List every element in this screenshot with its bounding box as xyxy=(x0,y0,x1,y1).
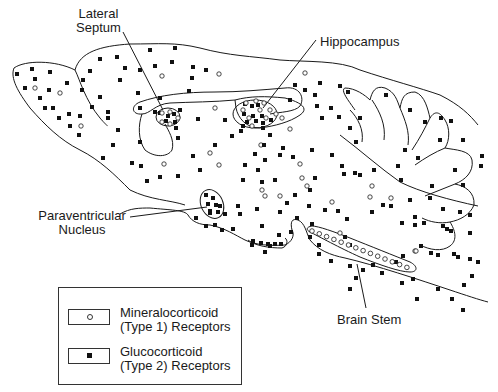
brain-stem-label: Brain Stem xyxy=(337,313,401,327)
lateral-septum-label-line2: Septum xyxy=(76,21,121,35)
legend-line1: Glucocorticoid xyxy=(120,345,231,359)
legend-text-mineralocorticoid: Mineralocorticoid (Type 1) Receptors xyxy=(120,306,231,334)
olfactory-bulb-outline xyxy=(13,62,185,205)
hippocampus-label: Hippocampus xyxy=(320,35,400,49)
paraventricular-nucleus-label: Paraventricular Nucleus xyxy=(36,209,128,237)
lateral-septum-label: Lateral Septum xyxy=(76,7,121,35)
lateral-septum-label-line1: Lateral xyxy=(76,7,121,21)
legend-text-glucocorticoid: Glucocorticoid (Type 2) Receptors xyxy=(120,345,231,373)
hippocampus-leader-line xyxy=(263,40,316,108)
ventricle-lower-outline xyxy=(133,100,235,114)
legend-swatch-filled-square xyxy=(68,348,110,364)
legend-line2: (Type 2) Receptors xyxy=(120,359,231,373)
septum-mineralocorticoid-markers xyxy=(160,99,284,128)
legend-item-mineralocorticoid: Mineralocorticoid (Type 1) Receptors xyxy=(68,306,231,334)
legend-swatch-open-circle xyxy=(68,309,110,325)
legend-line1: Mineralocorticoid xyxy=(120,306,231,320)
paraventricular-nucleus-outline xyxy=(196,186,229,222)
open-circle-icon xyxy=(87,314,93,320)
pvn-label-line2: Nucleus xyxy=(36,223,128,237)
pvn-label-line1: Paraventricular xyxy=(36,209,128,223)
glucocorticoid-receptor-markers xyxy=(15,46,484,312)
legend: Mineralocorticoid (Type 1) Receptors Glu… xyxy=(58,287,242,385)
brain-stem-mineralocorticoid-markers xyxy=(310,229,410,270)
legend-line2: (Type 1) Receptors xyxy=(120,320,231,334)
brain-stem-dorsal-outline xyxy=(340,135,478,206)
legend-item-glucocorticoid: Glucocorticoid (Type 2) Receptors xyxy=(68,345,231,373)
filled-square-icon xyxy=(87,353,92,358)
